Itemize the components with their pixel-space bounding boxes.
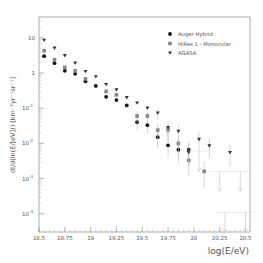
y-tick-label: 10-4 xyxy=(22,209,33,217)
plot-frame xyxy=(39,17,250,232)
data-point xyxy=(84,77,88,81)
data-point xyxy=(104,90,108,94)
data-point xyxy=(42,49,46,53)
data-point xyxy=(177,142,181,146)
data-point xyxy=(53,61,57,65)
y-tick-label: 1 xyxy=(32,70,36,76)
data-point xyxy=(73,69,77,73)
data-point xyxy=(125,104,129,108)
legend-label: HiRes 1 - Monocular xyxy=(178,41,232,47)
data-point xyxy=(115,93,119,97)
y-tick-label: 10-3 xyxy=(22,174,33,182)
data-point xyxy=(63,69,67,73)
x-tick-label: 20.25 xyxy=(212,235,228,241)
y-tick-label: 10-1 xyxy=(22,103,33,111)
x-tick-label: 18.5 xyxy=(33,235,46,241)
data-point xyxy=(104,95,108,99)
data-point xyxy=(135,114,139,118)
data-point xyxy=(115,98,119,102)
data-point xyxy=(63,66,67,70)
legend-label: Auger Hybrid xyxy=(178,31,213,38)
chart: 18.518.751919.2519.519.752020.2520.5 101… xyxy=(0,0,263,263)
x-tick-label: 20.5 xyxy=(239,235,252,241)
x-tick-label: 19 xyxy=(87,235,94,241)
data-point xyxy=(146,123,150,127)
x-tick-label: 19.75 xyxy=(160,235,176,241)
legend-marker xyxy=(168,32,172,36)
data-point xyxy=(42,54,46,58)
x-tick-label: 19.25 xyxy=(109,235,125,241)
legend-marker xyxy=(168,42,172,46)
data-point xyxy=(146,114,150,118)
data-point xyxy=(156,128,160,132)
x-tick-label: 19.5 xyxy=(136,235,149,241)
plot-svg: 18.518.751919.2519.519.752020.2520.5 101… xyxy=(0,0,263,263)
x-tick-label: 20 xyxy=(190,235,197,241)
x-axis-label: log(E/eV) xyxy=(208,246,249,256)
data-point xyxy=(94,84,98,88)
data-point xyxy=(202,170,206,174)
data-point xyxy=(53,58,57,62)
y-axis-label: dI/d(ln(E/[eV])) [km⁻²yr⁻¹sr⁻¹] xyxy=(9,77,17,173)
y-tick-label: 10 xyxy=(28,35,35,41)
y-tick-label: 10-2 xyxy=(22,138,33,146)
data-point xyxy=(166,143,170,147)
x-tick-label: 18.75 xyxy=(57,235,73,241)
legend-label: AGASA xyxy=(178,50,197,56)
